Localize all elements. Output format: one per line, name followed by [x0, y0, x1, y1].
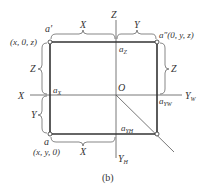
label-x-axis: X — [17, 90, 25, 101]
projection-diagram: Z X YW YH O a′ (x, 0, z) a″(0, y, z) a (… — [0, 0, 211, 190]
label-z-axis: Z — [111, 9, 117, 20]
point-a-prime — [48, 40, 52, 44]
brace-bottom-x — [51, 137, 115, 146]
dim-top-y: Y — [134, 19, 141, 30]
brace-top-y — [117, 30, 156, 39]
point-a-double-prime — [155, 40, 159, 44]
dim-right-z: Z — [171, 63, 177, 74]
label-a-coords: (x, y, 0) — [33, 147, 60, 157]
brace-left-z — [38, 43, 47, 94]
brace-top-x — [51, 30, 115, 39]
label-a-double-prime: a″(0, y, z) — [159, 30, 194, 40]
label-origin: O — [118, 82, 125, 93]
label-yh-axis: YH — [118, 153, 129, 165]
label-yw-axis: YW — [185, 90, 197, 102]
label-az: aZ — [119, 44, 128, 55]
label-a-prime-coords: (x, 0, z) — [10, 37, 37, 47]
dim-top-x: X — [79, 19, 87, 30]
label-a: a — [44, 136, 49, 147]
label-ayw: aYW — [159, 96, 173, 107]
dim-left-y: Y — [31, 109, 38, 120]
label-ayh: aYH — [121, 123, 134, 134]
dim-left-z: Z — [30, 63, 36, 74]
label-a-prime: a′ — [45, 23, 53, 34]
figure-caption: (b) — [102, 172, 114, 184]
brace-left-y — [38, 96, 47, 133]
brace-right-z — [160, 43, 169, 94]
dim-bottom-x: X — [79, 146, 87, 157]
point-a-diag — [155, 132, 159, 136]
label-ax: aX — [53, 85, 62, 96]
